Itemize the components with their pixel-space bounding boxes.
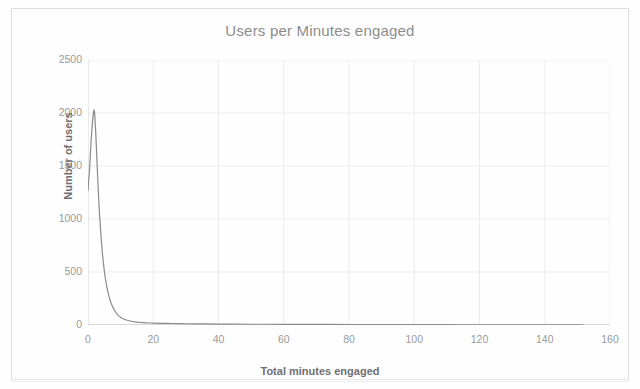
x-axis-tick-label: 140 — [525, 333, 565, 345]
x-axis-tick-label: 120 — [460, 333, 500, 345]
data-series-line — [88, 110, 584, 325]
y-axis-tick-label: 500 — [36, 265, 82, 277]
x-axis-tick-label: 20 — [133, 333, 173, 345]
y-axis-title: Number of users — [62, 76, 74, 236]
scanned-chart-page: Users per Minutes engaged 05001000150020… — [0, 0, 640, 389]
x-axis-tick-label: 100 — [394, 333, 434, 345]
chart-title: Users per Minutes engaged — [0, 22, 640, 39]
y-axis-tick-label: 1500 — [36, 159, 82, 171]
x-axis-tick-label: 60 — [264, 333, 304, 345]
x-axis-tick-label: 40 — [199, 333, 239, 345]
y-axis-tick-label: 2000 — [36, 106, 82, 118]
x-axis-title: Total minutes engaged — [0, 365, 640, 377]
y-axis-tick-label: 0 — [36, 318, 82, 330]
x-axis-tick-label: 80 — [329, 333, 369, 345]
y-axis-tick-label: 2500 — [36, 53, 82, 65]
plot-canvas — [88, 60, 610, 325]
vertical-gridlines — [153, 60, 610, 325]
x-axis-tick-label: 160 — [590, 333, 630, 345]
plot-area — [88, 60, 610, 325]
x-axis-tick-label: 0 — [68, 333, 108, 345]
y-axis-tick-label: 1000 — [36, 212, 82, 224]
chart-figure: Users per Minutes engaged 05001000150020… — [0, 0, 640, 389]
